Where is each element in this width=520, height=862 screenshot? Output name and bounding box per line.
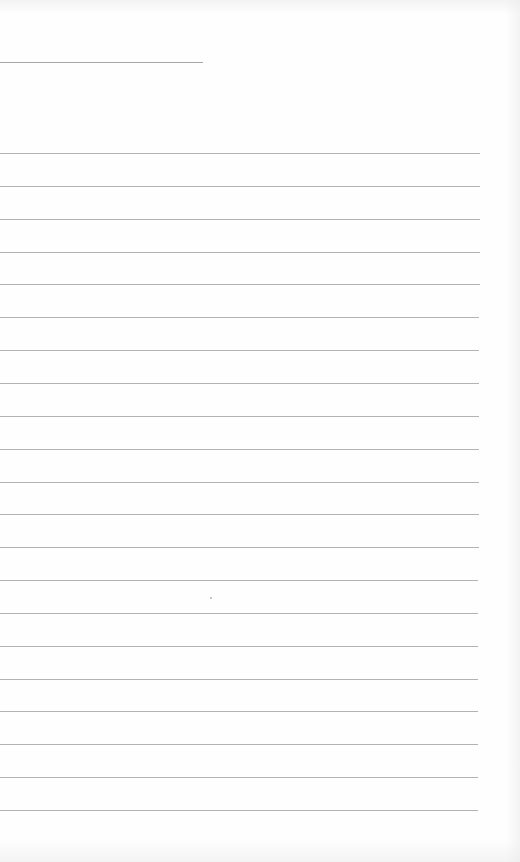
ruled-line xyxy=(0,219,480,220)
ruled-line xyxy=(0,153,480,154)
top-edge-shadow xyxy=(0,0,520,14)
ruled-line xyxy=(0,416,479,417)
ruled-line xyxy=(0,449,479,450)
ruled-line xyxy=(0,317,479,318)
paper-speck xyxy=(210,597,212,599)
ruled-line xyxy=(0,744,478,745)
ruled-line xyxy=(0,186,480,187)
ruled-line xyxy=(0,514,479,515)
ruled-line xyxy=(0,777,478,778)
ruled-line xyxy=(0,646,478,647)
ruled-line xyxy=(0,580,478,581)
ruled-line xyxy=(0,711,478,712)
ruled-line xyxy=(0,810,478,811)
ruled-line xyxy=(0,679,478,680)
ruled-line xyxy=(0,547,479,548)
ruled-line xyxy=(0,284,480,285)
ruled-line xyxy=(0,350,479,351)
bottom-edge-shadow xyxy=(0,840,520,862)
ruled-line xyxy=(0,383,479,384)
right-edge-shadow xyxy=(506,0,520,862)
header-rule xyxy=(0,62,203,63)
lined-paper-sheet xyxy=(0,0,520,862)
ruled-line xyxy=(0,252,480,253)
ruled-line xyxy=(0,613,478,614)
ruled-line xyxy=(0,482,479,483)
